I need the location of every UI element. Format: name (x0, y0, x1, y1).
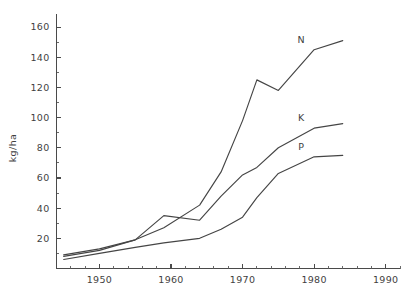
x-tick-label: 1980 (301, 274, 326, 285)
y-tick-label: 40 (37, 203, 50, 214)
y-axis-group: 20406080100120140160 (30, 14, 61, 269)
series-line-p (64, 155, 343, 259)
chart-container: 20406080100120140160 1950196019701980199… (0, 0, 417, 296)
y-axis-title: kg/ha (7, 134, 18, 163)
y-tick-label: 100 (30, 112, 49, 123)
y-tick-label: 160 (30, 21, 49, 32)
y-tick-label: 120 (30, 82, 49, 93)
y-axis-ticks (57, 27, 62, 268)
series-label-k: K (298, 112, 305, 123)
y-tick-label: 20 (37, 233, 50, 244)
x-axis-ticks (71, 264, 400, 269)
y-tick-label: 60 (37, 172, 50, 183)
x-tick-label: 1950 (87, 274, 112, 285)
y-axis-tick-labels: 20406080100120140160 (30, 21, 49, 243)
y-tick-label: 140 (30, 52, 49, 63)
line-chart: 20406080100120140160 1950196019701980199… (0, 0, 417, 296)
x-tick-label: 1960 (158, 274, 183, 285)
y-tick-label: 80 (37, 142, 50, 153)
x-axis-group: 19501960197019801990 (57, 264, 401, 285)
x-tick-label: 1990 (373, 274, 398, 285)
series-label-p: P (298, 141, 304, 152)
series-label-n: N (297, 34, 304, 45)
x-tick-label: 1970 (230, 274, 255, 285)
x-axis-tick-labels: 19501960197019801990 (87, 274, 399, 285)
